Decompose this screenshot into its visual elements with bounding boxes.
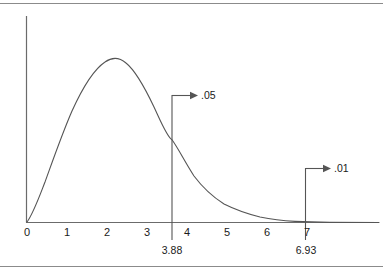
x-tick-label-0: 0 — [24, 226, 30, 238]
figure-container: .05 .01 0 1 2 3 4 5 6 7 3.88 6.93 — [0, 0, 383, 280]
x-tick-label-4: 4 — [184, 226, 190, 238]
critical-value-label-01: 6.93 — [296, 244, 317, 256]
density-curve — [27, 58, 379, 222]
x-tick-label-7: 7 — [304, 226, 310, 238]
x-tick-label-3: 3 — [144, 226, 150, 238]
x-tick-label-5: 5 — [224, 226, 230, 238]
alpha-label-05: .05 — [201, 89, 216, 101]
x-tick-label-1: 1 — [64, 226, 70, 238]
alpha-label-01: .01 — [334, 162, 349, 174]
distribution-chart: .05 .01 0 1 2 3 4 5 6 7 3.88 6.93 — [0, 0, 383, 280]
x-tick-label-2: 2 — [104, 226, 110, 238]
x-tick-label-6: 6 — [264, 226, 270, 238]
annotation-arrowhead-05 — [190, 92, 198, 99]
critical-value-label-05: 3.88 — [162, 244, 183, 256]
annotation-arrowhead-01 — [323, 165, 331, 172]
